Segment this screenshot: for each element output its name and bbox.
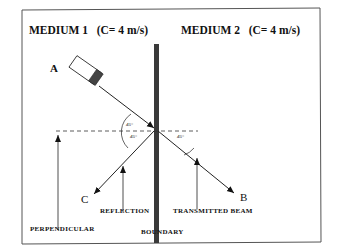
transmitted-beam	[158, 131, 234, 193]
transmitted-beam-label: TRANSMITTED BEAM	[173, 207, 253, 215]
boundary-label: BOUNDARY	[141, 228, 184, 236]
beam-source	[69, 56, 103, 86]
reflected-beam	[94, 131, 154, 194]
perpendicular-label: PERPENDICULAR	[30, 225, 95, 233]
point-c: C	[81, 193, 88, 205]
incident-angle: 45°	[126, 122, 133, 127]
frame-border	[22, 8, 321, 244]
reflected-angle: 45°	[130, 134, 137, 139]
medium2-name: MEDIUM 2	[181, 24, 240, 36]
diagram-canvas	[0, 0, 340, 252]
point-a: A	[50, 62, 58, 74]
transmitted-angle: 45°	[177, 134, 184, 139]
reflection-label: REFLECTION	[100, 207, 149, 215]
medium1-name: MEDIUM 1	[29, 24, 88, 36]
medium1-label: MEDIUM 1 (C= 4 m/s)	[29, 24, 148, 36]
medium1-speed: (C= 4 m/s)	[97, 24, 148, 36]
boundary-bar	[154, 44, 159, 243]
medium2-speed: (C= 4 m/s)	[249, 24, 300, 36]
point-b: B	[240, 191, 247, 203]
medium2-label: MEDIUM 2 (C= 4 m/s)	[181, 24, 300, 36]
